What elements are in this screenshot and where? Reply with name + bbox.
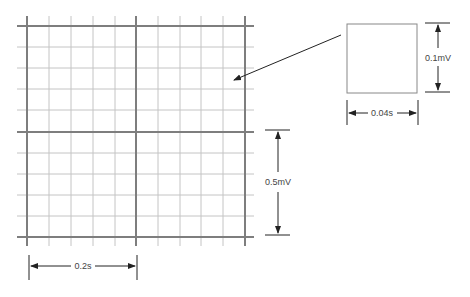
label-0.04s: 0.04s <box>371 108 394 118</box>
ecg-grid-diagram: 0.2s 0.5mV 0.1mV 0.04s <box>0 0 470 297</box>
label-0.2s: 0.2s <box>74 261 92 271</box>
label-0.1mV: 0.1mV <box>425 53 451 63</box>
callout-arrow <box>234 35 341 80</box>
small-box-callout <box>347 24 417 93</box>
label-0.5mV: 0.5mV <box>265 177 291 187</box>
thick-grid-lines <box>17 16 254 246</box>
